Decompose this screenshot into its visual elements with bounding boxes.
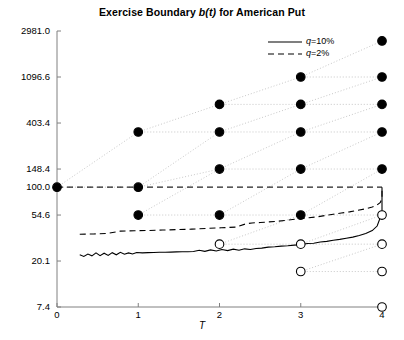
lattice-node-filled (215, 128, 224, 137)
lattice-node-filled (378, 128, 387, 137)
lattice-node-filled (134, 128, 143, 137)
legend-q-symbol: q (306, 36, 311, 46)
lattice-edge (220, 104, 301, 132)
lattice-node-filled (296, 211, 305, 220)
lattice-node-filled (378, 73, 387, 82)
lattice-edge (220, 169, 301, 215)
chart-figure: Exercise Boundary b(t) for American Put … (0, 0, 404, 340)
lattice-node-filled (215, 211, 224, 220)
lattice-edge (57, 132, 138, 187)
y-tick-label: 1096.6 (2, 72, 50, 82)
lattice-edge (301, 77, 382, 104)
boundary-curve-q2 (80, 187, 382, 234)
lattice-node-filled (296, 128, 305, 137)
lattice-node-filled (296, 165, 305, 174)
lattice-edge (220, 132, 301, 169)
lattice-edge (301, 104, 382, 132)
lattice-edge (301, 244, 382, 271)
lattice-node-filled (378, 100, 387, 109)
plot-canvas (0, 0, 404, 340)
y-tick-label: 2981.0 (2, 26, 50, 36)
lattice-node-filled (215, 165, 224, 174)
boundary-curve-q10 (80, 187, 382, 256)
lattice-edge (138, 169, 219, 215)
legend-label: q=2% (306, 48, 329, 58)
x-tick-label: 2 (210, 310, 230, 320)
lattice-node-open (378, 240, 387, 249)
x-tick-label: 1 (128, 310, 148, 320)
lattice-edge (138, 132, 219, 187)
lattice-edge (138, 104, 219, 132)
lattice-node-filled (134, 183, 143, 192)
lattice-node-filled (296, 73, 305, 82)
lattice-edge (301, 215, 382, 244)
lattice-node-open (378, 267, 387, 276)
lattice-node-filled (134, 211, 143, 220)
y-tick-label: 54.6 (2, 210, 50, 220)
y-tick-label: 20.1 (2, 256, 50, 266)
lattice-node-filled (296, 100, 305, 109)
lattice-node-filled (378, 37, 387, 46)
y-tick-label: 403.4 (2, 118, 50, 128)
x-tick-label: 4 (372, 310, 392, 320)
y-tick-label: 100.0 (2, 182, 50, 192)
lattice-node-open (215, 240, 224, 249)
lattice-node-open (378, 211, 387, 220)
lattice-edge (301, 132, 382, 169)
lattice-node-filled (378, 165, 387, 174)
lattice-node-open (296, 240, 305, 249)
x-tick-label: 0 (47, 310, 67, 320)
x-axis-label: T (0, 320, 404, 331)
lattice-edge (220, 215, 301, 244)
lattice-edge (220, 77, 301, 104)
lattice-node-filled (215, 100, 224, 109)
lattice-node-filled (53, 183, 62, 192)
x-tick-label: 3 (291, 310, 311, 320)
y-tick-label: 148.4 (2, 164, 50, 174)
lattice-edge (301, 41, 382, 77)
legend-label: q=10% (306, 36, 334, 46)
lattice-node-open (296, 267, 305, 276)
legend-q-symbol: q (306, 48, 311, 58)
lattice-edge (138, 169, 219, 187)
y-tick-label: 7.4 (2, 302, 50, 312)
